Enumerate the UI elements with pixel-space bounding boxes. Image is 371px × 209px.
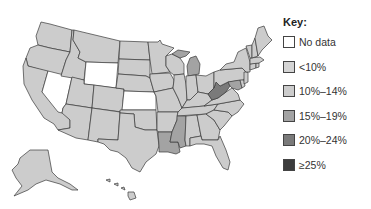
legend-label: No data	[299, 36, 336, 48]
state-new-jersey[interactable]	[244, 72, 248, 84]
legend-item-10-14: 10%–14%	[283, 84, 371, 98]
legend-label: ≥25%	[299, 159, 326, 171]
legend-swatch	[283, 61, 295, 73]
state-montana[interactable]	[73, 30, 120, 63]
state-new-mexico[interactable]	[88, 108, 120, 142]
state-maryland[interactable]	[228, 80, 242, 90]
state-rhode-island[interactable]	[256, 63, 259, 68]
state-florida[interactable]	[190, 136, 230, 170]
legend-title: Key:	[283, 16, 371, 28]
state-hawaii[interactable]	[106, 179, 136, 200]
state-new-york[interactable]	[220, 48, 250, 72]
legend-swatch	[283, 159, 295, 171]
legend-label: 15%–19%	[299, 110, 347, 122]
legend-swatch	[283, 36, 295, 48]
state-wyoming[interactable]	[84, 62, 118, 88]
state-kansas[interactable]	[122, 91, 156, 110]
legend-item-no-data: No data	[283, 35, 371, 49]
state-north-dakota[interactable]	[119, 41, 150, 60]
state-alaska[interactable]	[12, 150, 78, 196]
state-colorado[interactable]	[92, 85, 124, 112]
legend-item-15-19: 15%–19%	[283, 109, 371, 123]
map-legend: Key: No data <10% 10%–14% 15%–19% 20%–24…	[283, 16, 371, 182]
legend-item-ge25: ≥25%	[283, 158, 371, 172]
legend-label: 10%–14%	[299, 85, 347, 97]
legend-item-20-24: 20%–24%	[283, 133, 371, 147]
legend-swatch	[283, 134, 295, 146]
legend-swatch	[283, 110, 295, 122]
legend-label: <10%	[299, 61, 326, 73]
state-maine[interactable]	[255, 26, 272, 56]
legend-swatch	[283, 85, 295, 97]
legend-label: 20%–24%	[299, 134, 347, 146]
us-map	[0, 0, 280, 209]
legend-item-lt10: <10%	[283, 60, 371, 74]
